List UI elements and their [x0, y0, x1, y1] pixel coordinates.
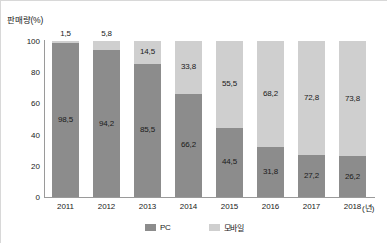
bar-label-mobile-2012: 5,8 [93, 30, 120, 38]
y-axis-tick-60: 60 [14, 99, 40, 108]
bar-segment-pc-2018[interactable]: 26,2 [339, 156, 366, 197]
y-axis-title: 판매량(%) [7, 13, 43, 25]
legend-label: 모바일 [224, 222, 244, 233]
bar-label-pc-2011: 98,5 [52, 116, 79, 124]
bar-label-pc-2016: 31,8 [257, 168, 284, 176]
bar-group-2012[interactable]: 5,894,2 [93, 41, 120, 197]
chart-legend: PC모바일 [1, 222, 387, 233]
x-axis-tick-2011: 2011 [44, 202, 88, 211]
bar-segment-mobile-2013[interactable]: 14,5 [134, 41, 161, 64]
bar-segment-pc-2013[interactable]: 85,5 [134, 64, 161, 197]
bar-group-2013[interactable]: 14,585,5 [134, 41, 161, 197]
y-axis-tick-20: 20 [14, 161, 40, 170]
bar-label-mobile-2016: 68,2 [257, 90, 284, 98]
bar-segment-mobile-2012[interactable]: 5,8 [93, 41, 120, 50]
bar-label-mobile-2011: 1,5 [52, 30, 79, 38]
x-axis-tick-2013: 2013 [126, 202, 170, 211]
bar-segment-mobile-2018[interactable]: 73,8 [339, 41, 366, 156]
y-axis-tick-labels: 100806040200 [9, 41, 40, 197]
legend-swatch-icon [145, 224, 156, 231]
bar-group-2015[interactable]: 55,544,5 [216, 41, 243, 197]
bar-segment-mobile-2015[interactable]: 55,5 [216, 41, 243, 128]
x-axis-line [44, 197, 375, 198]
x-axis-tick-2016: 2016 [249, 202, 293, 211]
legend-item-pc[interactable]: PC [145, 223, 171, 232]
x-axis-tick-2015: 2015 [208, 202, 252, 211]
legend-swatch-icon [209, 224, 220, 231]
y-axis-tick-40: 40 [14, 130, 40, 139]
bar-group-2016[interactable]: 68,231,8 [257, 41, 284, 197]
legend-item-mobile[interactable]: 모바일 [209, 222, 244, 233]
bar-label-pc-2012: 94,2 [93, 120, 120, 128]
bar-label-mobile-2018: 73,8 [339, 95, 366, 103]
bar-segment-pc-2014[interactable]: 66,2 [175, 94, 202, 197]
x-axis-tick-labels: 20112012201320142015201620172018 [45, 202, 373, 216]
bar-group-2014[interactable]: 33,866,2 [175, 41, 202, 197]
bar-label-mobile-2013: 14,5 [134, 48, 161, 56]
bar-group-2017[interactable]: 72,827,2 [298, 41, 325, 197]
bar-label-pc-2015: 44,5 [216, 158, 243, 166]
bar-label-pc-2014: 66,2 [175, 141, 202, 149]
chart-container: 판매량(%) 100806040200 1,598,55,894,214,585… [0, 0, 387, 243]
x-axis-tick-2017: 2017 [290, 202, 334, 211]
bar-segment-pc-2012[interactable]: 94,2 [93, 50, 120, 197]
plot-area: 1,598,55,894,214,585,533,866,255,544,568… [45, 41, 373, 197]
bar-segment-pc-2016[interactable]: 31,8 [257, 147, 284, 197]
bar-label-pc-2017: 27,2 [298, 172, 325, 180]
y-axis-tick-80: 80 [14, 68, 40, 77]
bar-segment-pc-2015[interactable]: 44,5 [216, 128, 243, 197]
y-axis-tick-100: 100 [14, 37, 40, 46]
x-axis-unit-label: (년) [362, 202, 374, 213]
legend-label: PC [160, 223, 171, 232]
bar-label-mobile-2017: 72,8 [298, 94, 325, 102]
bar-label-mobile-2015: 55,5 [216, 80, 243, 88]
bar-group-2011[interactable]: 1,598,5 [52, 41, 79, 197]
bar-segment-pc-2017[interactable]: 27,2 [298, 155, 325, 197]
bar-label-pc-2018: 26,2 [339, 173, 366, 181]
bar-segment-mobile-2016[interactable]: 68,2 [257, 41, 284, 147]
bar-segment-pc-2011[interactable]: 98,5 [52, 43, 79, 197]
bar-label-pc-2013: 85,5 [134, 126, 161, 134]
x-axis-tick-2014: 2014 [167, 202, 211, 211]
bar-group-2018[interactable]: 73,826,2 [339, 41, 366, 197]
bar-segment-mobile-2014[interactable]: 33,8 [175, 41, 202, 94]
bar-label-mobile-2014: 33,8 [175, 63, 202, 71]
bar-segment-mobile-2017[interactable]: 72,8 [298, 41, 325, 155]
y-axis-tick-0: 0 [14, 193, 40, 202]
x-axis-tick-2012: 2012 [85, 202, 129, 211]
